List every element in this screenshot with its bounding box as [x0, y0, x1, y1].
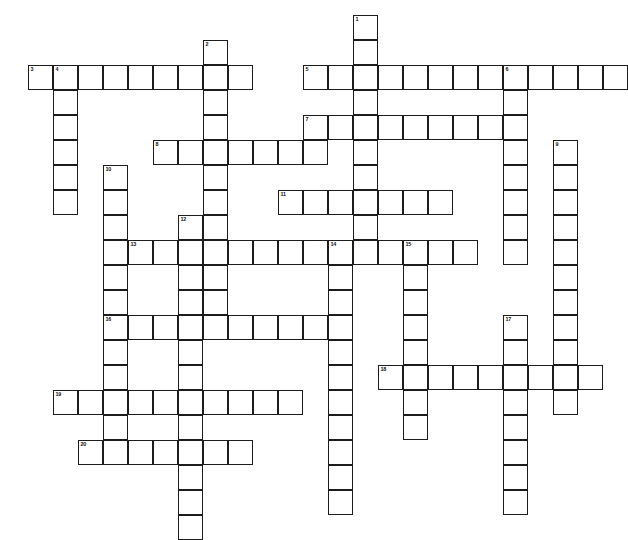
- crossword-cell[interactable]: [103, 240, 128, 265]
- crossword-cell-numbered[interactable]: 19: [53, 390, 78, 415]
- crossword-cell[interactable]: [403, 415, 428, 440]
- crossword-cell[interactable]: [103, 390, 128, 415]
- crossword-cell[interactable]: [328, 490, 353, 515]
- crossword-cell[interactable]: [378, 240, 403, 265]
- crossword-cell[interactable]: [203, 190, 228, 215]
- crossword-cell[interactable]: [328, 440, 353, 465]
- crossword-cell[interactable]: [228, 240, 253, 265]
- crossword-cell[interactable]: [103, 415, 128, 440]
- crossword-cell[interactable]: [428, 65, 453, 90]
- crossword-cell[interactable]: [278, 140, 303, 165]
- crossword-cell[interactable]: [428, 115, 453, 140]
- crossword-cell[interactable]: [228, 140, 253, 165]
- crossword-cell[interactable]: [503, 365, 528, 390]
- crossword-cell[interactable]: [528, 65, 553, 90]
- crossword-cell[interactable]: [353, 190, 378, 215]
- crossword-cell[interactable]: [178, 515, 203, 540]
- crossword-cell[interactable]: [278, 315, 303, 340]
- crossword-cell-numbered[interactable]: 5: [303, 65, 328, 90]
- crossword-cell[interactable]: [553, 190, 578, 215]
- crossword-cell[interactable]: [153, 315, 178, 340]
- crossword-cell[interactable]: [578, 65, 603, 90]
- crossword-cell[interactable]: [553, 265, 578, 290]
- crossword-cell[interactable]: [103, 365, 128, 390]
- crossword-cell[interactable]: [478, 115, 503, 140]
- crossword-cell[interactable]: [328, 65, 353, 90]
- crossword-cell[interactable]: [378, 115, 403, 140]
- crossword-cell-numbered[interactable]: 11: [278, 190, 303, 215]
- crossword-cell[interactable]: [428, 190, 453, 215]
- crossword-cell[interactable]: [528, 365, 553, 390]
- crossword-cell-numbered[interactable]: 13: [128, 240, 153, 265]
- crossword-cell-numbered[interactable]: 10: [103, 165, 128, 190]
- crossword-cell[interactable]: 6: [503, 65, 528, 90]
- crossword-cell[interactable]: [503, 490, 528, 515]
- crossword-cell[interactable]: [403, 390, 428, 415]
- crossword-cell[interactable]: [403, 115, 428, 140]
- crossword-cell[interactable]: [78, 65, 103, 90]
- crossword-cell[interactable]: [403, 365, 428, 390]
- crossword-cell[interactable]: [353, 115, 378, 140]
- crossword-cell[interactable]: [53, 190, 78, 215]
- crossword-cell[interactable]: [328, 315, 353, 340]
- crossword-cell[interactable]: [178, 315, 203, 340]
- crossword-cell[interactable]: [203, 90, 228, 115]
- crossword-cell[interactable]: [453, 240, 478, 265]
- crossword-cell[interactable]: [328, 365, 353, 390]
- crossword-cell[interactable]: [453, 65, 478, 90]
- crossword-cell[interactable]: [328, 390, 353, 415]
- crossword-cell[interactable]: [178, 140, 203, 165]
- crossword-cell[interactable]: [553, 165, 578, 190]
- crossword-cell[interactable]: [353, 165, 378, 190]
- crossword-cell[interactable]: [228, 65, 253, 90]
- crossword-cell[interactable]: [203, 290, 228, 315]
- crossword-cell[interactable]: [103, 215, 128, 240]
- crossword-cell-numbered[interactable]: 18: [378, 365, 403, 390]
- crossword-cell[interactable]: [203, 165, 228, 190]
- crossword-cell[interactable]: [503, 215, 528, 240]
- crossword-cell[interactable]: [303, 240, 328, 265]
- crossword-cell[interactable]: [178, 65, 203, 90]
- crossword-cell[interactable]: [328, 265, 353, 290]
- crossword-cell[interactable]: [503, 240, 528, 265]
- crossword-cell[interactable]: [503, 340, 528, 365]
- crossword-cell[interactable]: [178, 365, 203, 390]
- crossword-cell-numbered[interactable]: 17: [503, 315, 528, 340]
- crossword-cell[interactable]: [403, 65, 428, 90]
- crossword-cell[interactable]: [428, 240, 453, 265]
- crossword-cell[interactable]: [103, 265, 128, 290]
- crossword-cell[interactable]: [228, 390, 253, 415]
- crossword-cell[interactable]: [228, 440, 253, 465]
- crossword-cell-numbered[interactable]: 3: [28, 65, 53, 90]
- crossword-cell[interactable]: [153, 440, 178, 465]
- crossword-cell[interactable]: [128, 440, 153, 465]
- crossword-cell[interactable]: [478, 65, 503, 90]
- crossword-cell-numbered[interactable]: 9: [553, 140, 578, 165]
- crossword-cell[interactable]: [553, 340, 578, 365]
- crossword-cell[interactable]: [53, 165, 78, 190]
- crossword-cell[interactable]: [103, 440, 128, 465]
- crossword-cell[interactable]: [503, 115, 528, 140]
- crossword-cell[interactable]: 14: [328, 240, 353, 265]
- crossword-cell[interactable]: [278, 390, 303, 415]
- crossword-cell[interactable]: [403, 315, 428, 340]
- crossword-cell[interactable]: [553, 240, 578, 265]
- crossword-cell[interactable]: [553, 290, 578, 315]
- crossword-cell[interactable]: [178, 440, 203, 465]
- crossword-cell[interactable]: [153, 390, 178, 415]
- crossword-cell[interactable]: [178, 240, 203, 265]
- crossword-cell[interactable]: [478, 365, 503, 390]
- crossword-cell[interactable]: [178, 340, 203, 365]
- crossword-cell[interactable]: [203, 315, 228, 340]
- crossword-cell[interactable]: [503, 415, 528, 440]
- crossword-cell[interactable]: [203, 440, 228, 465]
- crossword-cell-numbered[interactable]: 8: [153, 140, 178, 165]
- crossword-cell[interactable]: [503, 90, 528, 115]
- crossword-cell-numbered[interactable]: 12: [178, 215, 203, 240]
- crossword-cell[interactable]: [178, 465, 203, 490]
- crossword-cell[interactable]: [303, 190, 328, 215]
- crossword-cell[interactable]: [78, 390, 103, 415]
- crossword-cell[interactable]: [553, 390, 578, 415]
- crossword-cell[interactable]: [228, 315, 253, 340]
